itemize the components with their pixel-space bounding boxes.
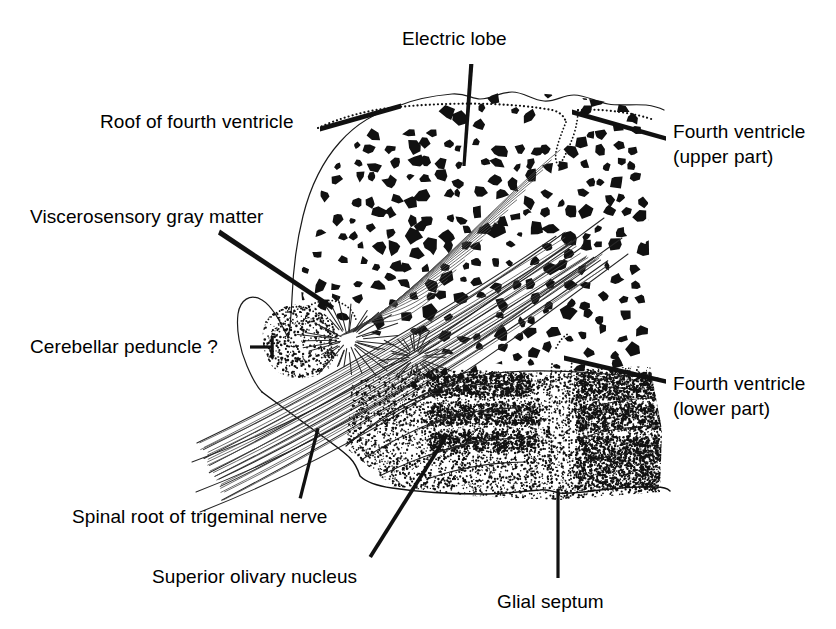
leader-cerebellar-peduncle-tick — [271, 336, 274, 358]
leader-glial-septum — [556, 489, 559, 578]
label-superior-olivary-nucleus: Superior olivary nucleus — [152, 565, 357, 590]
leader-viscerosensory-gray-matter — [218, 230, 334, 310]
peduncle-stipple — [246, 293, 350, 385]
label-glial-septum: Glial septum — [497, 590, 604, 615]
leader-spinal-root-of-trigeminal-nerve — [299, 428, 320, 499]
label-fourth-ventricle-upper: Fourth ventricle (upper part) — [673, 120, 806, 169]
ventricle-lower-dotted-right — [569, 360, 572, 488]
label-electric-lobe: Electric lobe — [402, 27, 507, 52]
leader-roof-of-fourth-ventricle — [320, 104, 401, 132]
label-roof-of-fourth-ventricle: Roof of fourth ventricle — [100, 110, 294, 135]
label-cerebellar-peduncle: Cerebellar peduncle ? — [30, 335, 218, 360]
ventricle-upper-notch-right — [559, 110, 578, 166]
ventricle-lower-dotted-top — [556, 334, 568, 348]
cerebellar-peduncle-region — [246, 293, 350, 385]
label-fourth-ventricle-lower: Fourth ventricle (lower part) — [673, 372, 806, 421]
label-viscerosensory-gray-matter: Viscerosensory gray matter — [30, 205, 264, 230]
label-spinal-root-of-trigeminal-nerve: Spinal root of trigeminal nerve — [72, 505, 328, 530]
illustration-canvas — [0, 0, 836, 629]
anatomical-figure: Electric lobe Roof of fourth ventricle F… — [0, 0, 836, 629]
leader-cerebellar-peduncle — [250, 345, 272, 348]
leader-superior-olivary-nucleus — [369, 434, 449, 558]
ventricle-upper-notch-left — [556, 122, 566, 166]
leader-fourth-ventricle-upper — [572, 110, 666, 141]
